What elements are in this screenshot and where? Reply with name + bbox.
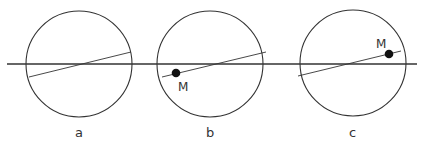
point-label-b: M: [178, 80, 188, 94]
panel-b: M b: [157, 11, 266, 140]
three-panel-circle-diagram: a M b M c: [0, 0, 425, 156]
point-label-c: M: [376, 37, 386, 51]
panel-label-a: a: [75, 125, 83, 140]
panel-label-b: b: [206, 125, 214, 140]
point-m-b: [172, 69, 181, 78]
panel-label-c: c: [349, 125, 356, 140]
panel-c: M c: [298, 10, 406, 140]
panel-a: a: [26, 11, 132, 140]
